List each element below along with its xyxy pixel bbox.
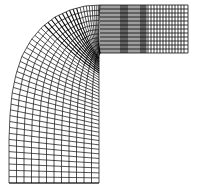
mesh-figure: Structured curvilinear computational mes…	[0, 0, 199, 190]
mesh-line-streamwise	[99, 53, 100, 183]
duct-bend-mesh	[0, 0, 199, 190]
